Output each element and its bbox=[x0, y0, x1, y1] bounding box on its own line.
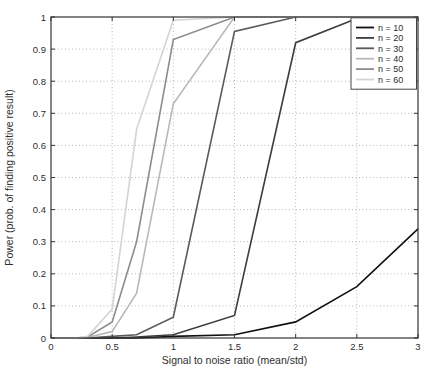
x-tick-label: 3 bbox=[415, 341, 420, 352]
y-tick-label: 0.3 bbox=[33, 236, 46, 247]
x-axis-label: Signal to noise ratio (mean/std) bbox=[162, 354, 307, 366]
legend-label: n = 40 bbox=[378, 54, 403, 64]
power-figure: 00.511.522.5300.10.20.30.40.50.60.70.80.… bbox=[0, 0, 427, 378]
legend-label: n = 30 bbox=[378, 44, 403, 54]
x-tick-label: 2 bbox=[293, 341, 298, 352]
y-tick-label: 0.6 bbox=[33, 140, 46, 151]
y-axis-label: Power (prob. of finding positive result) bbox=[3, 89, 15, 265]
y-tick-label: 1 bbox=[41, 12, 46, 23]
legend-label: n = 20 bbox=[378, 33, 403, 43]
x-tick-label: 1.5 bbox=[228, 341, 241, 352]
x-tick-label: 0 bbox=[48, 341, 53, 352]
x-tick-label: 0.5 bbox=[106, 341, 119, 352]
y-tick-label: 0.5 bbox=[33, 172, 46, 183]
y-tick-label: 0.4 bbox=[33, 204, 46, 215]
y-tick-label: 0.8 bbox=[33, 76, 46, 87]
x-tick-label: 1 bbox=[171, 341, 176, 352]
y-tick-label: 0.1 bbox=[33, 300, 46, 311]
power-chart: 00.511.522.5300.10.20.30.40.50.60.70.80.… bbox=[0, 0, 427, 378]
legend-label: n = 50 bbox=[378, 64, 403, 74]
y-tick-label: 0.2 bbox=[33, 268, 46, 279]
legend-label: n = 60 bbox=[378, 75, 403, 85]
legend-label: n = 10 bbox=[378, 23, 403, 33]
y-tick-label: 0.9 bbox=[33, 44, 46, 55]
y-tick-label: 0 bbox=[41, 333, 46, 344]
x-tick-label: 2.5 bbox=[350, 341, 363, 352]
y-tick-label: 0.7 bbox=[33, 108, 46, 119]
